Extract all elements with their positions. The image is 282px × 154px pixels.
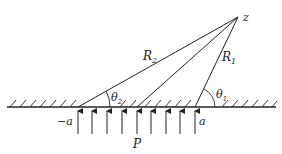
theta1-arc <box>204 89 215 107</box>
neg-a-label: −a <box>57 115 73 128</box>
r2-label: R2 <box>142 49 157 65</box>
theta2-arc <box>106 91 110 107</box>
pos-a-label: a <box>199 115 206 128</box>
theta1-label: θ1 <box>216 88 227 103</box>
point-z-label: z <box>242 11 249 24</box>
distributed-load-arrows <box>78 111 195 134</box>
diagram-canvas: z R2 R1 θ2 θ1 −a a P <box>0 0 282 154</box>
r1-label: R1 <box>221 50 236 66</box>
ray-r2 <box>78 17 238 107</box>
theta2-label: θ2 <box>111 91 123 106</box>
load-p-label: P <box>132 137 142 151</box>
